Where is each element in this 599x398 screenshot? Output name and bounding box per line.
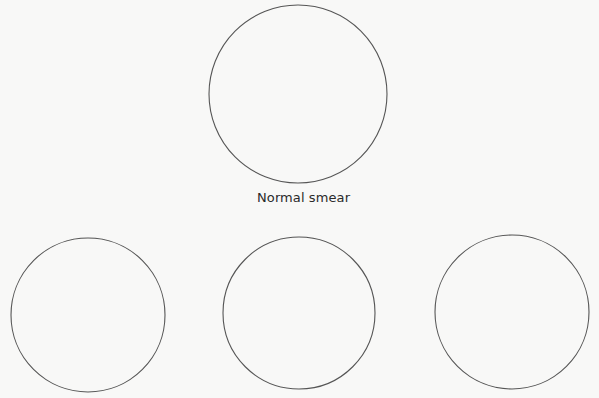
- diagram-canvas: Normal smear: [0, 0, 599, 398]
- bottom-left-circle: [11, 238, 165, 392]
- normal-smear-circle: [209, 5, 387, 183]
- normal-smear-label: Normal smear: [257, 190, 350, 205]
- bottom-right-circle: [435, 235, 589, 389]
- bottom-middle-circle: [223, 237, 375, 389]
